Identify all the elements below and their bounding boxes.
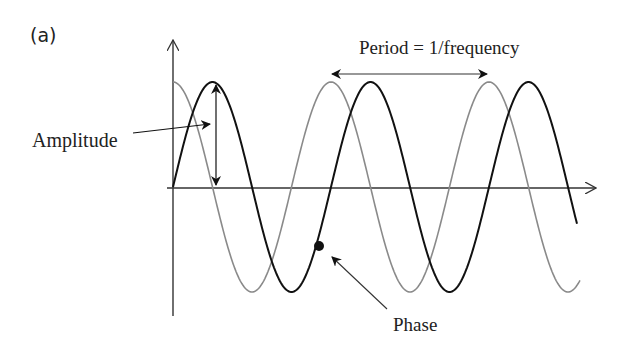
phase-annotation: Phase <box>314 241 437 335</box>
wave-diagram: (a) Amplitude Period = 1/frequency Phase <box>0 0 635 362</box>
phase-marker-dot <box>314 241 324 251</box>
primary-wave <box>173 82 577 292</box>
period-annotation: Period = 1/frequency <box>332 37 520 74</box>
amplitude-label: Amplitude <box>32 129 118 152</box>
panel-label: (a) <box>30 24 56 46</box>
period-label: Period = 1/frequency <box>359 37 520 58</box>
shifted-wave <box>173 82 580 292</box>
axes <box>167 40 596 316</box>
phase-pointer <box>332 257 387 309</box>
phase-label: Phase <box>393 314 437 335</box>
